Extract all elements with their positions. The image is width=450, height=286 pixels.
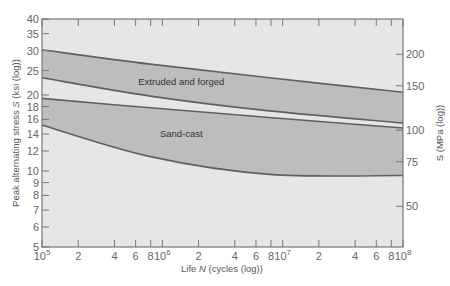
band-label: Extruded and forged (138, 76, 224, 87)
x-tick-label: 8 (388, 250, 394, 262)
y-tick-label: 18 (27, 101, 39, 113)
y-right-tick-label: 100 (406, 124, 424, 136)
x-tick-label: 107 (274, 248, 291, 262)
y-tick-label: 10 (27, 165, 39, 177)
x-tick-label: 6 (373, 250, 379, 262)
x-tick-label: 2 (75, 250, 81, 262)
y-tick-label: 25 (27, 65, 39, 77)
y-tick-label: 35 (27, 28, 39, 40)
x-tick-label: 8 (268, 250, 274, 262)
y-tick-label: 16 (27, 113, 39, 125)
y-tick-label: 6 (33, 221, 39, 233)
y-tick-label: 7 (33, 204, 39, 216)
x-tick-label: 4 (232, 250, 238, 262)
x-tick-label: 6 (253, 250, 259, 262)
x-tick-label: 108 (395, 248, 412, 262)
x-tick-label: 8 (148, 250, 154, 262)
y-right-tick-label: 75 (406, 156, 418, 168)
x-tick-label: 2 (195, 250, 201, 262)
y-tick-label: 8 (33, 189, 39, 201)
y-tick-label: 40 (27, 13, 39, 25)
y-right-tick-label: 200 (406, 48, 424, 60)
y-tick-label: 30 (27, 45, 39, 57)
x-tick-label: 2 (316, 250, 322, 262)
y-axis-right-title: S (MPa (log)) (434, 105, 445, 161)
x-tick-label: 6 (133, 250, 139, 262)
y-tick-label: 9 (33, 177, 39, 189)
y-tick-label: 5 (33, 241, 39, 253)
y-tick-label: 12 (27, 145, 39, 157)
x-axis-title: Life N (cycles (log)) (181, 263, 263, 274)
band-label: Sand-cast (160, 128, 203, 139)
y-tick-label: 20 (27, 89, 39, 101)
x-tick-label: 106 (154, 248, 171, 262)
x-tick-label: 4 (111, 250, 117, 262)
y-right-tick-label: 150 (406, 80, 424, 92)
y-axis-left-title: Peak alternating stress S (ksi (log)) (10, 59, 21, 207)
y-tick-label: 14 (27, 128, 39, 140)
y-right-tick-label: 50 (406, 200, 418, 212)
x-tick-label: 4 (352, 250, 358, 262)
fatigue-chart: 105246810624681072468108 567891012141618… (0, 0, 450, 286)
